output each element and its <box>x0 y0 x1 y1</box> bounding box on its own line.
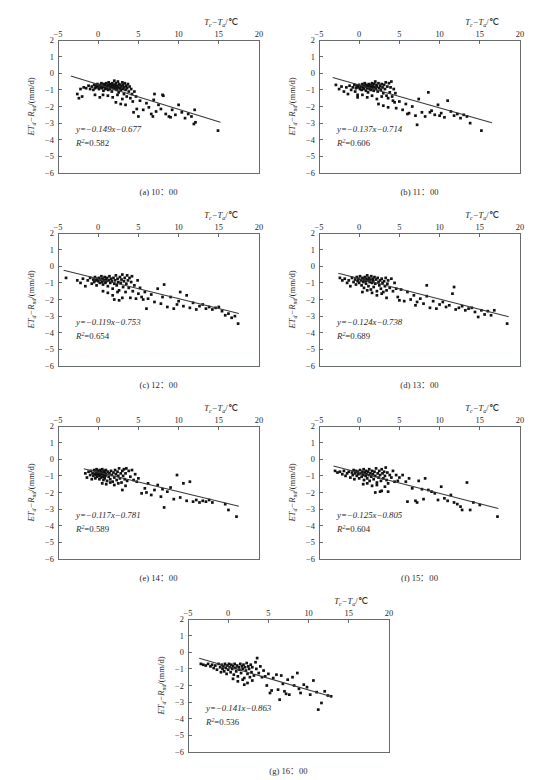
data-point <box>166 490 169 493</box>
data-point <box>427 91 430 94</box>
data-point <box>372 478 375 481</box>
data-point <box>366 477 369 480</box>
data-point <box>242 663 245 666</box>
data-point <box>244 666 247 669</box>
data-point <box>368 480 371 483</box>
x-tick-label: −5 <box>315 30 324 39</box>
data-point <box>387 106 390 109</box>
data-point <box>357 473 360 476</box>
data-point <box>182 482 185 485</box>
data-point <box>474 311 477 314</box>
x-tick-label: 0 <box>226 609 230 618</box>
y-tick-label: 0 <box>311 455 315 464</box>
data-point <box>217 129 220 132</box>
x-tick-label: −5 <box>54 416 63 425</box>
data-point <box>123 468 126 471</box>
data-point <box>102 290 105 293</box>
data-point <box>179 291 182 294</box>
data-point <box>396 296 399 299</box>
data-point <box>118 299 121 302</box>
data-point <box>392 290 395 293</box>
data-point <box>425 284 428 287</box>
data-point <box>309 693 312 696</box>
data-point <box>361 470 364 473</box>
y-tick-label: −5 <box>45 152 54 161</box>
data-point <box>351 86 354 89</box>
data-point <box>386 471 389 474</box>
data-point <box>90 85 93 88</box>
data-point <box>339 277 342 280</box>
data-point <box>380 287 383 290</box>
data-point <box>137 115 140 118</box>
data-point <box>241 668 244 671</box>
y-tick-label: −5 <box>175 731 184 740</box>
data-point <box>336 471 339 474</box>
x-tick-label: 5 <box>397 416 401 425</box>
data-point <box>388 82 391 85</box>
data-point <box>143 291 146 294</box>
data-point <box>177 300 180 303</box>
data-point <box>142 108 145 111</box>
data-point <box>185 499 188 502</box>
data-point <box>506 322 509 325</box>
data-point <box>234 315 237 318</box>
data-point <box>82 277 85 280</box>
data-point <box>376 472 379 475</box>
data-point <box>323 690 326 693</box>
data-point <box>373 83 376 86</box>
data-point <box>123 280 126 283</box>
data-point <box>347 93 350 96</box>
data-point <box>387 490 390 493</box>
y-tick-label: −1 <box>45 279 54 288</box>
x-tick-label: 15 <box>215 30 223 39</box>
x-tick-label: 0 <box>357 30 361 39</box>
data-point <box>424 477 427 480</box>
x-tick-label: 0 <box>96 30 100 39</box>
data-point <box>166 306 169 309</box>
data-point <box>101 482 104 485</box>
x-tick-label: 15 <box>215 416 223 425</box>
data-point <box>416 501 419 504</box>
y-tick-label: −5 <box>306 538 315 547</box>
data-point <box>469 122 472 125</box>
y-tick-label: 1 <box>311 53 315 62</box>
chart-panel-g: −505101520210−1−2−3−4−5−6Tc−Ta/℃ETd−Rnd/… <box>148 587 408 780</box>
y-tick-label: −3 <box>306 505 315 514</box>
data-point <box>200 663 203 666</box>
data-point <box>343 90 346 93</box>
data-point <box>232 673 235 676</box>
data-point <box>76 279 79 282</box>
data-point <box>103 477 106 480</box>
data-point <box>251 666 254 669</box>
data-point <box>395 107 398 110</box>
data-point <box>132 111 135 114</box>
x-tick-label: 20 <box>255 223 263 232</box>
x-tick-label: 0 <box>96 223 100 232</box>
y-tick-label: −4 <box>45 136 55 145</box>
x-tick-label: 0 <box>357 416 361 425</box>
data-point <box>467 307 470 310</box>
data-point <box>461 509 464 512</box>
data-point <box>228 663 231 666</box>
data-point <box>370 275 373 278</box>
data-point <box>367 91 370 94</box>
data-point <box>140 296 143 299</box>
data-point <box>86 279 89 282</box>
data-point <box>109 478 112 481</box>
data-point <box>392 88 395 91</box>
data-point <box>380 292 383 295</box>
data-point <box>340 85 343 88</box>
data-point <box>79 88 82 91</box>
data-point <box>419 297 422 300</box>
data-point <box>86 476 89 479</box>
data-point <box>128 85 131 88</box>
data-point <box>237 680 240 683</box>
data-point <box>376 290 379 293</box>
data-point <box>371 292 374 295</box>
data-point <box>334 470 337 473</box>
y-tick-label: −4 <box>306 329 316 338</box>
y-tick-label: 1 <box>50 246 54 255</box>
data-point <box>112 277 115 280</box>
data-point <box>341 473 344 476</box>
r-squared-label: R2=0.582 <box>75 138 109 148</box>
